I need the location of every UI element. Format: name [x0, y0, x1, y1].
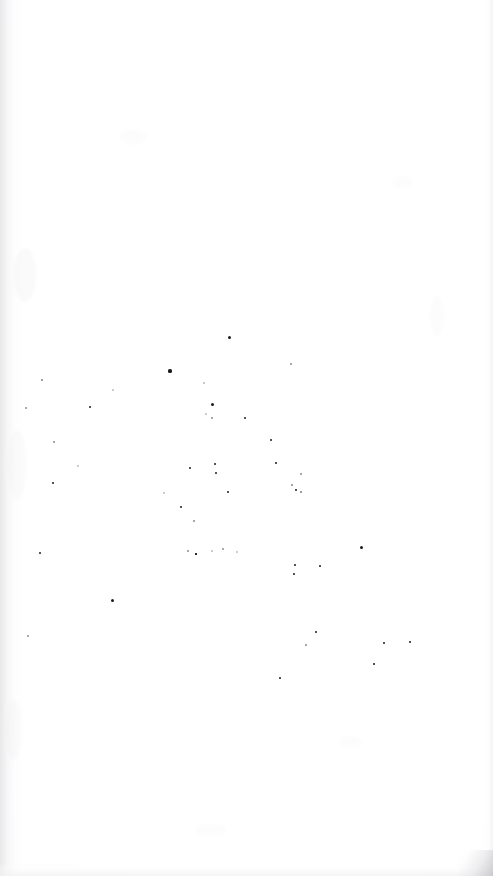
dust-speck: [319, 565, 321, 567]
dust-speck: [360, 546, 363, 549]
dust-speck: [300, 491, 302, 493]
dust-speck: [215, 472, 217, 474]
scanned-page: [0, 0, 493, 876]
dust-speck: [187, 550, 189, 552]
dust-speck: [25, 407, 27, 409]
dust-speck: [41, 379, 43, 381]
dust-speck: [275, 462, 277, 464]
dust-speck: [294, 564, 297, 567]
dust-speck: [228, 336, 231, 339]
dust-speck: [305, 644, 307, 646]
dust-speck: [383, 642, 385, 644]
dust-speck: [163, 492, 165, 494]
dust-speck: [291, 484, 293, 486]
scan-edge-shadow-bottom: [0, 862, 493, 876]
dust-speck: [244, 417, 246, 419]
dust-speck: [290, 363, 292, 365]
dust-speck: [89, 406, 92, 409]
dust-speck: [193, 520, 195, 522]
dust-speck: [53, 441, 55, 443]
dust-speck: [211, 403, 214, 406]
dust-speck: [189, 467, 192, 470]
dust-speck: [112, 389, 113, 390]
dust-speck: [227, 491, 230, 494]
scan-edge-shadow-right: [483, 0, 493, 876]
dust-speck: [27, 635, 29, 637]
dust-speck: [315, 631, 318, 634]
dust-speck: [77, 465, 78, 466]
dust-speck: [180, 506, 183, 509]
dust-speck: [195, 553, 197, 555]
dust-speck: [211, 550, 213, 552]
dust-speck: [111, 599, 114, 602]
blur-blob: [392, 176, 412, 188]
dust-speck: [295, 489, 297, 491]
blur-blob: [8, 430, 26, 500]
corner-smudge: [457, 850, 493, 876]
blur-blob: [338, 736, 362, 748]
paper-texture: [0, 0, 493, 876]
dust-speck: [203, 382, 205, 384]
blur-blob: [196, 824, 226, 836]
blur-blob: [6, 700, 22, 760]
scan-edge-shadow-left: [0, 0, 26, 876]
dust-speck: [52, 482, 55, 485]
blur-blob: [120, 130, 146, 144]
dust-speck: [222, 548, 224, 550]
dust-speck: [236, 551, 238, 553]
dust-speck: [300, 473, 302, 475]
blur-blob: [14, 248, 36, 302]
blur-blob: [430, 296, 444, 336]
dust-speck: [293, 573, 295, 575]
dust-speck: [214, 463, 216, 465]
dust-speck: [211, 417, 213, 419]
dust-speck: [409, 641, 411, 643]
dust-speck: [373, 663, 375, 665]
dust-speck: [270, 439, 273, 442]
dust-speck: [168, 369, 171, 372]
dust-speck: [205, 413, 206, 414]
dust-speck: [39, 552, 42, 555]
dust-speck: [279, 677, 282, 680]
